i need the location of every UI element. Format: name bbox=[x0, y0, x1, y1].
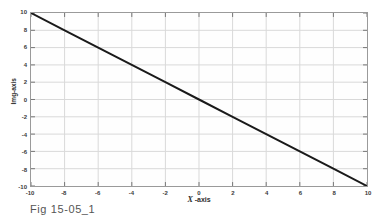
y-tick-label: 8 bbox=[24, 27, 27, 33]
y-tick-label: -4 bbox=[22, 132, 27, 138]
plot-area bbox=[30, 12, 368, 187]
figure-container: -10-8-6-4-20246810 1086420-2-4-6-8-10 X … bbox=[0, 0, 379, 224]
y-tick-label: 6 bbox=[24, 44, 27, 50]
y-axis-title: Img-axis bbox=[11, 61, 18, 121]
x-axis-title-suffix: -axis bbox=[193, 196, 211, 203]
y-tick-label: 10 bbox=[20, 9, 27, 15]
y-tick-label: 4 bbox=[24, 62, 27, 68]
plot-canvas bbox=[31, 13, 367, 186]
y-tick-label: -2 bbox=[22, 114, 27, 120]
y-tick-label: 0 bbox=[24, 97, 27, 103]
figure-caption: Fig 15-05_1 bbox=[30, 203, 95, 215]
y-tick-label: 2 bbox=[24, 79, 27, 85]
y-tick-label: -10 bbox=[18, 184, 27, 190]
y-tick-label: -6 bbox=[22, 149, 27, 155]
y-tick-label: -8 bbox=[22, 167, 27, 173]
